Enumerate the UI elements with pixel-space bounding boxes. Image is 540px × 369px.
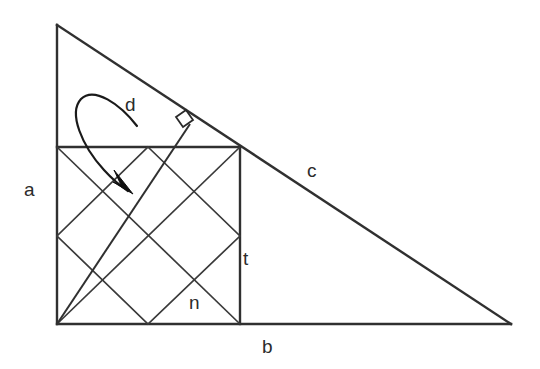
label-c: c <box>307 161 317 180</box>
right-triangle <box>57 25 511 324</box>
triangle-hypotenuse <box>57 25 511 324</box>
label-d: d <box>125 95 136 114</box>
geometry-drawing <box>0 0 540 369</box>
diagram-canvas: a b c d t n <box>0 0 540 369</box>
label-n: n <box>189 293 200 312</box>
square-diagonals <box>57 147 240 324</box>
label-t: t <box>243 249 248 268</box>
label-a: a <box>24 180 35 199</box>
perpendicular-segment <box>57 124 190 324</box>
label-b: b <box>262 337 273 356</box>
